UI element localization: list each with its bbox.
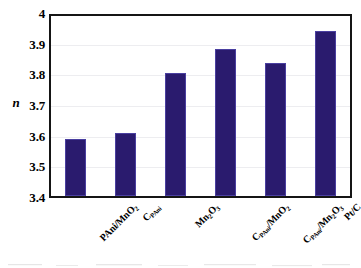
bar[interactable] bbox=[165, 73, 186, 196]
bar[interactable] bbox=[315, 31, 336, 196]
bar-slot bbox=[300, 16, 350, 196]
scan-artifact bbox=[0, 262, 361, 268]
y-tick-label: 4 bbox=[39, 6, 45, 22]
y-tick-label: 3.5 bbox=[29, 159, 45, 175]
bar-series bbox=[51, 16, 350, 196]
bar[interactable] bbox=[215, 49, 236, 196]
y-tick-label: 3.9 bbox=[29, 37, 45, 53]
bar-slot bbox=[51, 16, 101, 196]
bar-slot bbox=[250, 16, 300, 196]
y-tick-label: 3.7 bbox=[29, 98, 45, 114]
x-tick-label: CPAni/Mn2O3 bbox=[301, 202, 344, 245]
y-tick-label: 3.8 bbox=[29, 67, 45, 83]
bar-slot bbox=[101, 16, 151, 196]
chart-figure: n 3.43.53.63.73.83.94 PAni/MnO2CPAniMn2O… bbox=[0, 0, 361, 268]
x-tick-label: Mn2O3 bbox=[194, 202, 221, 229]
x-tick-label: PAni/MnO2 bbox=[98, 202, 139, 243]
x-tick-label: Pt/C bbox=[342, 202, 361, 222]
x-tick-label: CPAni/MnO2 bbox=[250, 202, 291, 243]
bar-slot bbox=[151, 16, 201, 196]
x-axis-tick-labels: PAni/MnO2CPAniMn2O3CPAni/MnO2CPAni/Mn2O3… bbox=[49, 198, 352, 268]
bar[interactable] bbox=[115, 133, 136, 196]
y-tick-label: 3.6 bbox=[29, 129, 45, 145]
bar[interactable] bbox=[265, 63, 286, 197]
plot-area bbox=[49, 14, 352, 198]
y-tick-label: 3.4 bbox=[29, 190, 45, 206]
x-tick-label: CPAni bbox=[141, 202, 162, 223]
bar-slot bbox=[200, 16, 250, 196]
bar[interactable] bbox=[65, 139, 86, 196]
y-axis-tick-labels: 3.43.53.63.73.83.94 bbox=[0, 0, 48, 268]
